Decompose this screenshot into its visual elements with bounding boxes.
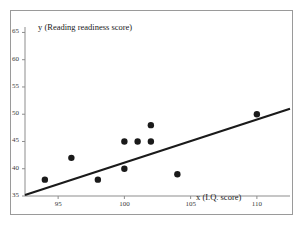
y-tick-label: 55	[5, 82, 19, 90]
trend-line	[25, 109, 290, 195]
axes	[22, 27, 290, 199]
data-points	[42, 111, 260, 183]
y-axis-label: y (Reading readiness score)	[38, 22, 132, 32]
x-axis-label: x (I.Q. score)	[196, 192, 241, 202]
data-point	[42, 176, 48, 182]
chart-figure: y (Reading readiness score) x (I.Q. scor…	[0, 0, 303, 233]
data-point	[68, 155, 74, 161]
data-point	[134, 138, 140, 144]
data-point	[121, 166, 127, 172]
scatter-plot	[0, 0, 303, 233]
y-tick-label: 45	[5, 136, 19, 144]
data-point	[254, 111, 260, 117]
x-tick-label: 95	[48, 200, 68, 208]
y-tick-label: 65	[5, 27, 19, 35]
x-tick-label: 100	[114, 200, 134, 208]
data-point	[95, 176, 101, 182]
x-tick-label: 105	[181, 200, 201, 208]
data-point	[148, 138, 154, 144]
y-tick-label: 60	[5, 55, 19, 63]
data-point	[121, 138, 127, 144]
data-point	[148, 122, 154, 128]
data-point	[174, 171, 180, 177]
x-tick-label: 110	[247, 200, 267, 208]
y-tick-label: 35	[5, 191, 19, 199]
y-tick-label: 40	[5, 164, 19, 172]
y-tick-label: 50	[5, 109, 19, 117]
